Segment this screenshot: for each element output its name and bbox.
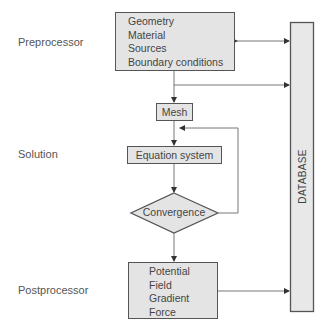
equation-system-label: Equation system	[136, 149, 214, 161]
equation-system-box: Equation system	[127, 146, 222, 164]
post-item-force: Force	[149, 306, 190, 320]
pre-item-material: Material	[128, 29, 223, 43]
pre-item-geometry: Geometry	[128, 15, 223, 29]
pre-item-boundary-conditions: Boundary conditions	[128, 56, 223, 70]
mesh-box: Mesh	[156, 103, 193, 121]
convergence-label: Convergence	[130, 206, 218, 218]
post-item-gradient: Gradient	[149, 292, 190, 306]
stage-label-preprocessor: Preprocessor	[18, 36, 83, 48]
database-label: DATABASE	[297, 147, 308, 207]
pre-item-sources: Sources	[128, 42, 223, 56]
post-item-field: Field	[149, 279, 190, 293]
postprocessor-box: Potential Field Gradient Force	[128, 262, 218, 319]
preprocessor-box: Geometry Material Sources Boundary condi…	[115, 12, 235, 71]
stage-label-solution: Solution	[18, 148, 58, 160]
mesh-label: Mesh	[162, 106, 188, 118]
post-item-potential: Potential	[149, 265, 190, 279]
stage-label-postprocessor: Postprocessor	[18, 284, 88, 296]
